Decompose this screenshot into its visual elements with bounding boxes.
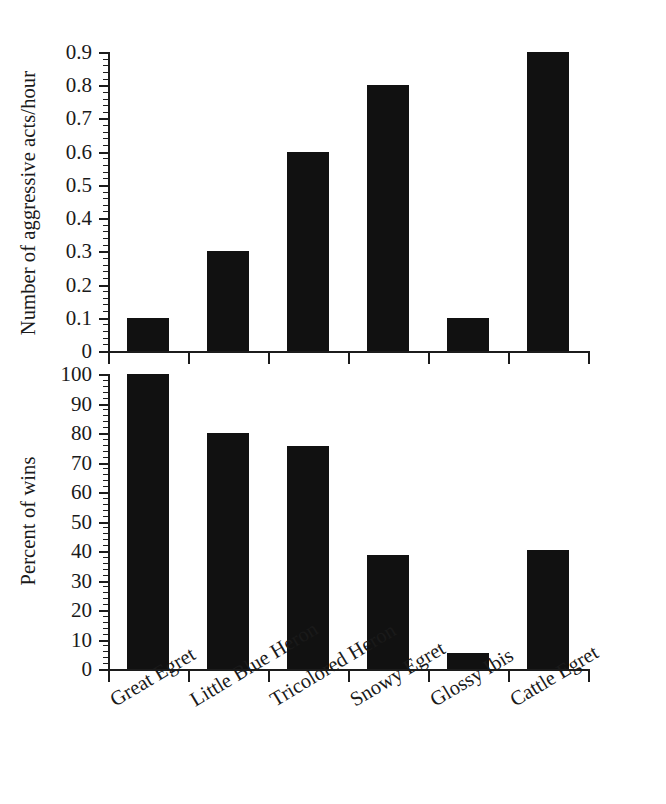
y-axis-minor-tick xyxy=(103,663,108,664)
y-axis-minor-tick xyxy=(103,545,108,546)
y-axis-minor-tick xyxy=(103,304,108,305)
y-axis-minor-tick xyxy=(103,125,108,126)
bar xyxy=(527,550,569,669)
y-axis-major-tick xyxy=(99,251,108,253)
y-axis-major-tick xyxy=(99,492,108,494)
y-axis-tick-label: 100 xyxy=(0,364,92,385)
y-axis-major-tick xyxy=(99,318,108,320)
x-axis-tick xyxy=(268,671,270,682)
y-axis-tick-label: 0.4 xyxy=(0,208,92,229)
y-axis-line xyxy=(108,374,110,671)
x-axis-tick xyxy=(188,353,190,364)
y-axis-tick-label: 0.5 xyxy=(0,174,92,195)
y-axis-minor-tick xyxy=(103,622,108,623)
y-axis-minor-tick xyxy=(103,486,108,487)
y-axis-minor-tick xyxy=(103,592,108,593)
y-axis-tick-label: 50 xyxy=(0,511,92,532)
y-axis-minor-tick xyxy=(103,468,108,469)
y-axis-major-tick xyxy=(99,85,108,87)
y-axis-minor-tick xyxy=(103,138,108,139)
x-axis-tick xyxy=(188,671,190,682)
y-axis-minor-tick xyxy=(103,616,108,617)
y-axis-tick-label: 0.7 xyxy=(0,108,92,129)
y-axis-minor-tick xyxy=(103,192,108,193)
y-axis-minor-tick xyxy=(103,604,108,605)
y-axis-minor-tick xyxy=(103,278,108,279)
y-axis-major-tick xyxy=(99,551,108,553)
y-axis-major-tick xyxy=(99,669,108,671)
y-axis-minor-tick xyxy=(103,344,108,345)
y-axis-minor-tick xyxy=(103,59,108,60)
y-axis-minor-tick xyxy=(103,539,108,540)
y-axis-tick-label: 0 xyxy=(0,341,92,362)
y-axis-minor-tick xyxy=(103,445,108,446)
y-axis-major-tick xyxy=(99,351,108,353)
y-axis-minor-tick xyxy=(103,569,108,570)
y-axis-minor-tick xyxy=(103,225,108,226)
y-axis-minor-tick xyxy=(103,291,108,292)
y-axis-minor-tick xyxy=(103,132,108,133)
y-axis-major-tick xyxy=(99,404,108,406)
y-axis-major-tick xyxy=(99,610,108,612)
y-axis-major-tick xyxy=(99,218,108,220)
y-axis-major-tick xyxy=(99,640,108,642)
y-axis-tick-label: 0.1 xyxy=(0,307,92,328)
y-axis-minor-tick xyxy=(103,457,108,458)
bar xyxy=(207,433,249,669)
y-axis-minor-tick xyxy=(103,392,108,393)
bar xyxy=(287,152,329,351)
y-axis-tick-label: 0.3 xyxy=(0,241,92,262)
y-axis-minor-tick xyxy=(103,172,108,173)
y-axis-minor-tick xyxy=(103,238,108,239)
x-axis-tick xyxy=(108,353,110,364)
y-axis-minor-tick xyxy=(103,439,108,440)
x-axis-tick xyxy=(348,353,350,364)
y-axis-minor-tick xyxy=(103,427,108,428)
y-axis-minor-tick xyxy=(103,415,108,416)
y-axis-minor-tick xyxy=(103,516,108,517)
x-axis-tick xyxy=(428,671,430,682)
y-axis-minor-tick xyxy=(103,105,108,106)
y-axis-major-tick xyxy=(99,152,108,154)
y-axis-minor-tick xyxy=(103,474,108,475)
y-axis-minor-tick xyxy=(103,533,108,534)
bar xyxy=(127,318,169,351)
y-axis-tick-label: 0.9 xyxy=(0,42,92,63)
y-axis-minor-tick xyxy=(103,657,108,658)
y-axis-minor-tick xyxy=(103,158,108,159)
bar xyxy=(127,374,169,669)
chart-panel-aggressive-acts: Number of aggressive acts/hour 00.10.20.… xyxy=(0,0,666,368)
y-axis-minor-tick xyxy=(103,398,108,399)
y-axis-tick-label: 80 xyxy=(0,423,92,444)
y-axis-tick-label: 40 xyxy=(0,541,92,562)
y-axis-minor-tick xyxy=(103,258,108,259)
y-axis-minor-tick xyxy=(103,504,108,505)
y-axis-minor-tick xyxy=(103,72,108,73)
y-axis-tick-label: 10 xyxy=(0,629,92,650)
y-axis-minor-tick xyxy=(103,645,108,646)
y-axis-minor-tick xyxy=(103,338,108,339)
y-axis-minor-tick xyxy=(103,480,108,481)
y-axis-minor-tick xyxy=(103,79,108,80)
x-axis-tick xyxy=(348,671,350,682)
y-axis-minor-tick xyxy=(103,324,108,325)
x-axis-tick xyxy=(268,353,270,364)
x-axis-tick xyxy=(588,671,590,682)
y-axis-minor-tick xyxy=(103,265,108,266)
y-axis-minor-tick xyxy=(103,331,108,332)
y-axis-minor-tick xyxy=(103,198,108,199)
y-axis-minor-tick xyxy=(103,628,108,629)
y-axis-major-tick xyxy=(99,118,108,120)
y-axis-tick-label: 70 xyxy=(0,452,92,473)
y-axis-minor-tick xyxy=(103,421,108,422)
y-axis-minor-tick xyxy=(103,409,108,410)
y-axis-minor-tick xyxy=(103,498,108,499)
y-axis-minor-tick xyxy=(103,510,108,511)
y-axis-minor-tick xyxy=(103,99,108,100)
y-axis-minor-tick xyxy=(103,386,108,387)
figure-container: Number of aggressive acts/hour 00.10.20.… xyxy=(0,0,666,804)
y-axis-major-tick xyxy=(99,463,108,465)
bar xyxy=(527,52,569,351)
y-axis-tick-label: 20 xyxy=(0,600,92,621)
y-axis-minor-tick xyxy=(103,380,108,381)
